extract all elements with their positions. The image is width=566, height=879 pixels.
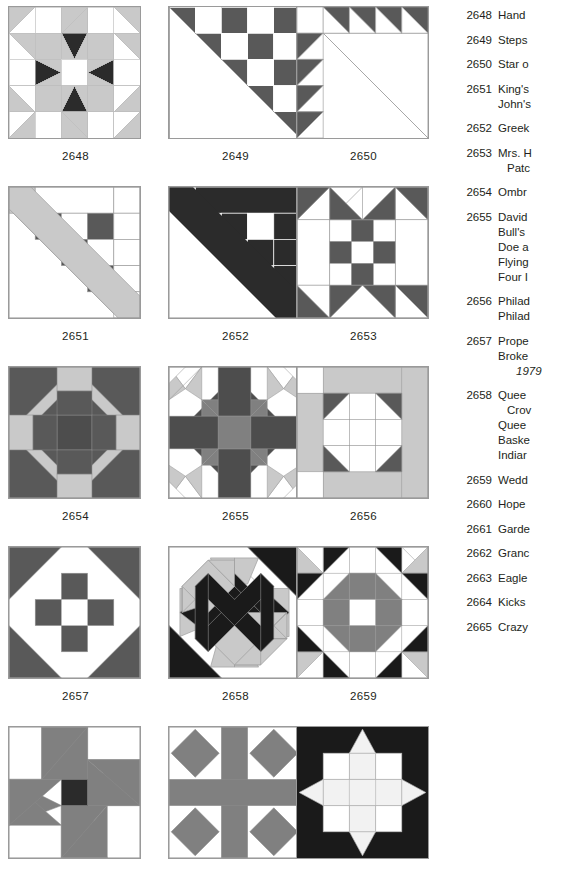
block-2650[interactable]: 2650 (296, 6, 431, 162)
index-entry[interactable]: 2651 King's John's (462, 82, 566, 112)
index-entry-number: 2654 (462, 185, 492, 200)
index-entry-names: Hand (498, 8, 526, 23)
index-entry-number: 2655 (462, 210, 492, 225)
block-2660-art (8, 726, 141, 859)
block-2657-art (8, 546, 141, 679)
block-2655-art (168, 366, 301, 499)
index-entry-number: 2665 (462, 620, 492, 635)
index-entry[interactable]: 2652 Greek (462, 121, 566, 136)
index-entry-name: Greek (498, 121, 529, 136)
index-entry-names: Kicks (498, 595, 525, 610)
block-2658-caption: 2658 (168, 690, 303, 702)
index-entry-names: Wedd (498, 473, 528, 488)
index-entry[interactable]: 2665 Crazy (462, 620, 566, 635)
block-2648[interactable]: 2648 (8, 6, 143, 162)
index-entry-names: Garde (498, 522, 530, 537)
quilt-index-page: 2648 (0, 0, 566, 879)
index-entry[interactable]: 2660 Hope (462, 497, 566, 512)
block-2651-art (8, 186, 141, 319)
block-2662-art (296, 726, 429, 859)
index-entry-name: Mrs. H (498, 146, 532, 161)
block-2658-art (168, 546, 301, 679)
block-2655[interactable]: 2655 (168, 366, 303, 522)
block-2654[interactable]: 2654 (8, 366, 143, 522)
index-entry-number: 2650 (462, 57, 492, 72)
index-entry-number: 2649 (462, 33, 492, 48)
index-entry-name: Broke (498, 349, 542, 364)
block-2658[interactable]: 2658 (168, 546, 303, 702)
index-entry-name: Bull's (498, 225, 529, 240)
index-entry[interactable]: 2663 Eagle (462, 571, 566, 586)
block-2660[interactable] (8, 726, 143, 870)
index-entry[interactable]: 2649 Steps (462, 33, 566, 48)
index-entry-number: 2663 (462, 571, 492, 586)
index-entry-names: Star o (498, 57, 529, 72)
index-entry-name: Baske (498, 433, 531, 448)
block-2655-caption: 2655 (168, 510, 303, 522)
index-entry-name: Garde (498, 522, 530, 537)
block-2649-art (168, 6, 301, 139)
index-entry[interactable]: 2648 Hand (462, 8, 566, 23)
block-2657[interactable]: 2657 (8, 546, 143, 702)
index-entry-name: Philad (498, 294, 530, 309)
index-entry-name: Quee (498, 388, 531, 403)
index-entry-number: 2662 (462, 546, 492, 561)
block-2654-art (8, 366, 141, 499)
index-entry-number: 2658 (462, 388, 492, 403)
index-entry-name: Hand (498, 8, 526, 23)
index-entry-number: 2653 (462, 146, 492, 161)
index-entry-name: Steps (498, 33, 527, 48)
index-entry[interactable]: 2650 Star o (462, 57, 566, 72)
block-2659-caption: 2659 (296, 690, 431, 702)
block-2661-art (168, 726, 301, 859)
block-2661[interactable] (168, 726, 303, 870)
block-2648-art (8, 6, 141, 139)
index-entry-number: 2659 (462, 473, 492, 488)
index-entry-name: Indiar (498, 448, 531, 463)
block-2662[interactable] (296, 726, 431, 870)
index-entry[interactable]: 2661 Garde (462, 522, 566, 537)
index-entry[interactable]: 2654 Ombr (462, 185, 566, 200)
index-entry[interactable]: 2656 Philad Philad (462, 294, 566, 324)
block-2654-caption: 2654 (8, 510, 143, 522)
index-entry-names: Quee Crov Quee Baske Indiar (498, 388, 531, 463)
block-2652-caption: 2652 (168, 330, 303, 342)
block-2652[interactable]: 2652 (168, 186, 303, 342)
index-entry[interactable]: 2655 David Bull's Doe a Flying Four I (462, 210, 566, 285)
index-entry-names: Prope Broke 1979 (498, 334, 542, 379)
index-entry-name: David (498, 210, 529, 225)
block-2656[interactable]: 2656 (296, 366, 431, 522)
index-entry-name: Hope (498, 497, 526, 512)
index-entry-name: Patc (498, 161, 532, 176)
block-2651[interactable]: 2651 (8, 186, 143, 342)
index-entry-name: John's (498, 97, 531, 112)
block-2653[interactable]: 2653 (296, 186, 431, 342)
index-entry[interactable]: 2664 Kicks (462, 595, 566, 610)
block-2657-caption: 2657 (8, 690, 143, 702)
index-entry-number: 2660 (462, 497, 492, 512)
index-entry-names: Ombr (498, 185, 527, 200)
index-entry[interactable]: 2653 Mrs. H Patc (462, 146, 566, 176)
index-entry-number: 2648 (462, 8, 492, 23)
index-entry-names: Greek (498, 121, 529, 136)
block-2659[interactable]: 2659 (296, 546, 431, 702)
index-entry-name: Philad (498, 309, 530, 324)
block-2659-art (296, 546, 429, 679)
index-entry-names: King's John's (498, 82, 531, 112)
block-name-index: 2648 Hand 2649 Steps 2650 Star o 2651 Ki… (462, 8, 566, 654)
index-entry-names: David Bull's Doe a Flying Four I (498, 210, 529, 285)
block-2650-caption: 2650 (296, 150, 431, 162)
block-2656-caption: 2656 (296, 510, 431, 522)
index-entry[interactable]: 2657 Prope Broke 1979 (462, 334, 566, 379)
index-entry[interactable]: 2662 Granc (462, 546, 566, 561)
block-2650-art (296, 6, 429, 139)
index-entry-number: 2652 (462, 121, 492, 136)
block-2653-caption: 2653 (296, 330, 431, 342)
index-entry-names: Eagle (498, 571, 527, 586)
index-entry[interactable]: 2659 Wedd (462, 473, 566, 488)
index-entry-number: 2664 (462, 595, 492, 610)
block-2649[interactable]: 2649 (168, 6, 303, 162)
block-2648-caption: 2648 (8, 150, 143, 162)
index-entry-number: 2661 (462, 522, 492, 537)
index-entry[interactable]: 2658 Quee Crov Quee Baske Indiar (462, 388, 566, 463)
